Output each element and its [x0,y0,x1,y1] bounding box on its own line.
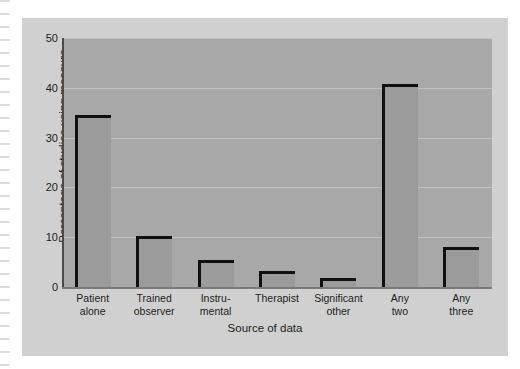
bar [75,115,111,287]
x-axis-title: Source of data [22,322,508,334]
y-axis-tick-labels: 50403020100 [22,18,58,356]
bar [136,236,172,287]
bar [198,260,234,287]
y-tick-label: 50 [34,32,58,44]
bar-slot [259,38,295,287]
chart-figure: Percentage of studies using measure 5040… [22,18,508,356]
y-tick-label: 0 [34,281,58,293]
bar-slot [136,38,172,287]
bar-slot [75,38,111,287]
bar-slot [320,38,356,287]
bar [259,271,295,287]
y-tick-label: 10 [34,231,58,243]
x-tick-label: Significantother [308,292,369,317]
bar-slot [382,38,418,287]
bar-series [62,38,492,287]
y-tick-label: 30 [34,132,58,144]
bar-slot [198,38,234,287]
x-tick-label: Anytwo [369,292,430,317]
y-tick-label: 20 [34,181,58,193]
x-tick-label: Patientalone [62,292,123,317]
x-tick-label: Therapist [246,292,307,305]
bar [320,278,356,287]
bar-slot [443,38,479,287]
x-tick-label: Trainedobserver [123,292,184,317]
y-tick-label: 40 [34,82,58,94]
bar [382,84,418,287]
x-axis-line [62,287,492,289]
bar [443,247,479,287]
x-axis-tick-labels: PatientaloneTrainedobserverInstru-mental… [62,292,492,322]
x-tick-label: Instru-mental [185,292,246,317]
x-tick-label: Anythree [431,292,492,317]
scan-edge-artifact [0,0,10,369]
